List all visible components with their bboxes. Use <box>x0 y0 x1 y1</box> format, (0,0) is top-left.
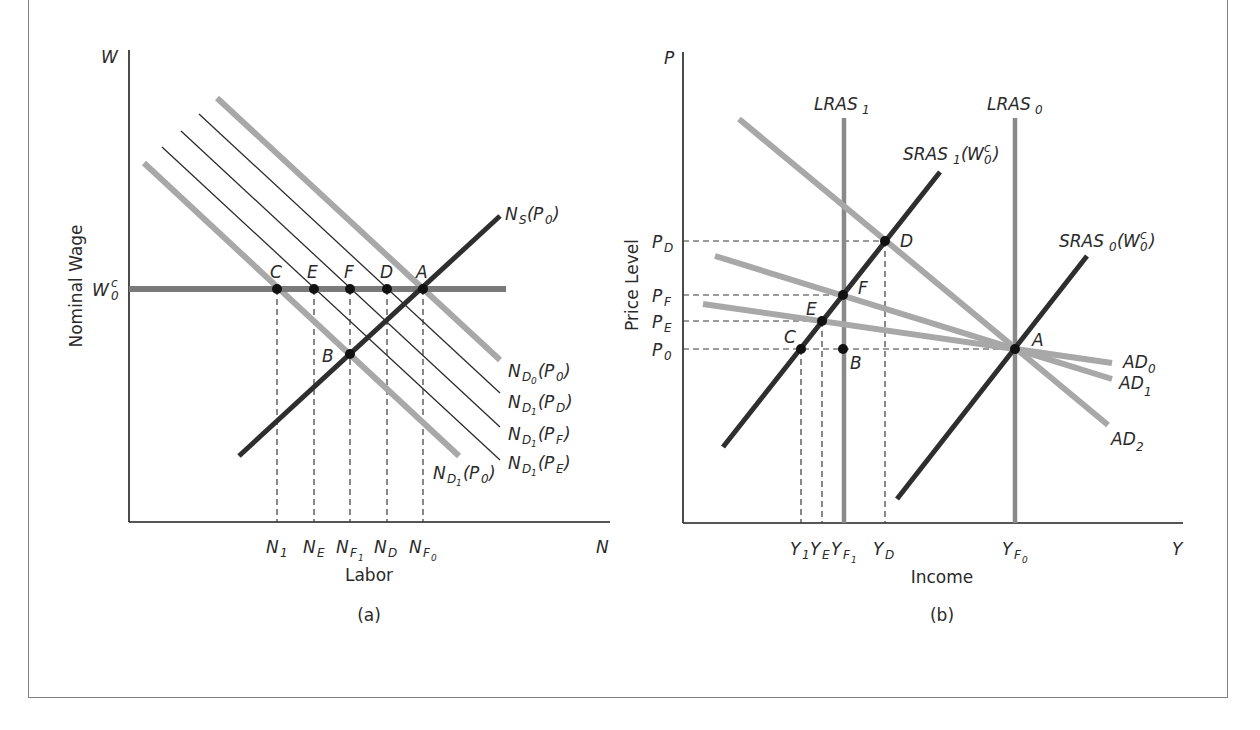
tick-nf1: N F 1 <box>336 537 364 563</box>
label-a-b: A <box>1031 330 1044 350</box>
svg-text:1: 1 <box>953 153 961 167</box>
label-c-b: C <box>784 327 796 347</box>
tick-n1: N 1 <box>266 537 288 560</box>
svg-text:D: D <box>556 401 565 415</box>
label-ad2: AD 2 <box>1110 429 1144 454</box>
svg-text:P: P <box>544 424 555 444</box>
y-axis-label-a: Nominal Wage <box>66 224 86 347</box>
svg-text:D: D <box>885 548 894 562</box>
svg-text:SRAS: SRAS <box>1059 231 1104 251</box>
svg-text:0: 0 <box>1140 240 1148 254</box>
label-ad1: AD 1 <box>1118 373 1152 399</box>
x-symbol-y: Y <box>1172 539 1184 559</box>
svg-text:): ) <box>562 424 571 444</box>
svg-text:AD: AD <box>1118 373 1144 393</box>
tick-pf: P F <box>652 286 672 309</box>
label-f-b: F <box>858 278 868 298</box>
svg-text:1: 1 <box>531 468 537 478</box>
svg-text:F: F <box>350 546 358 560</box>
point-d-a <box>382 284 392 294</box>
svg-text:D: D <box>447 472 456 486</box>
svg-text:Y: Y <box>790 539 802 559</box>
svg-text:D: D <box>522 401 531 415</box>
svg-text:D: D <box>388 546 397 560</box>
svg-text:W: W <box>1123 231 1141 251</box>
svg-text:F: F <box>664 295 672 309</box>
svg-text:Y: Y <box>810 539 822 559</box>
svg-text:2: 2 <box>1136 440 1144 454</box>
point-c-b <box>796 344 806 354</box>
svg-text:): ) <box>991 144 1000 164</box>
svg-text:1: 1 <box>280 546 288 560</box>
svg-text:W: W <box>92 280 110 300</box>
svg-text:1: 1 <box>862 103 870 117</box>
svg-text:F: F <box>556 433 564 447</box>
svg-text:1: 1 <box>1144 385 1152 399</box>
curve-nd1-p0 <box>144 163 459 456</box>
svg-text:P: P <box>652 340 663 360</box>
label-d-b: D <box>900 231 913 251</box>
svg-text:E: E <box>556 462 564 476</box>
y-axis-label-b: Price Level <box>622 239 642 331</box>
point-c-a <box>272 284 282 294</box>
tick-nd: N D <box>374 537 397 560</box>
tick-p0: P 0 <box>652 340 672 363</box>
tick-y1: Y 1 <box>790 539 810 562</box>
svg-text:): ) <box>1147 231 1156 251</box>
svg-text:P: P <box>533 204 544 224</box>
label-sras1: SRAS 1 ( W c 0 ) <box>903 141 1000 167</box>
svg-text:0: 0 <box>664 349 672 363</box>
svg-text:E: E <box>822 548 830 562</box>
curve-nd1-pf <box>181 131 500 427</box>
svg-text:Y: Y <box>831 539 843 559</box>
svg-text:0: 0 <box>545 213 553 227</box>
svg-text:F: F <box>843 548 851 562</box>
svg-text:N: N <box>508 453 521 473</box>
svg-text:D: D <box>522 462 531 476</box>
label-nd1-pe: N D 1 ( P E ) <box>508 453 571 478</box>
label-nd0-p0: N D 0 ( P 0 ) <box>508 361 571 386</box>
label-d-a: D <box>380 262 393 282</box>
svg-text:AD: AD <box>1110 429 1136 449</box>
svg-text:P: P <box>652 286 663 306</box>
svg-text:c: c <box>111 276 118 290</box>
svg-text:P: P <box>652 232 663 252</box>
svg-text:N: N <box>409 537 422 557</box>
svg-text:): ) <box>487 463 496 483</box>
point-d-b <box>880 236 890 246</box>
svg-text:0: 0 <box>1148 362 1156 376</box>
svg-text:0: 0 <box>984 153 992 167</box>
svg-text:N: N <box>508 424 521 444</box>
svg-text:N: N <box>336 537 349 557</box>
label-nd1-pf: N D 1 ( P F ) <box>508 424 571 449</box>
svg-text:N: N <box>266 537 279 557</box>
tick-pe: P E <box>652 312 672 335</box>
svg-text:): ) <box>551 204 560 224</box>
svg-text:): ) <box>564 392 573 412</box>
label-lras1: LRAS 1 <box>814 94 870 117</box>
x-axis-label-b: Income <box>911 567 974 587</box>
tick-yd: Y D <box>873 539 894 562</box>
label-e-a: E <box>307 262 318 282</box>
svg-text:P: P <box>544 453 555 473</box>
svg-text:1: 1 <box>358 553 364 563</box>
svg-text:N: N <box>433 463 446 483</box>
svg-text:0: 0 <box>431 553 437 563</box>
x-axis-label-a: Labor <box>345 565 393 585</box>
label-b-b: B <box>850 353 862 373</box>
label-f-a: F <box>344 262 354 282</box>
svg-text:0: 0 <box>1109 240 1117 254</box>
panel-b: D F E C B A P Y Price Level P D P F P E … <box>622 48 1184 625</box>
svg-text:P: P <box>544 361 555 381</box>
label-a-a: A <box>415 262 428 282</box>
label-lras0: LRAS 0 <box>987 94 1043 117</box>
svg-text:SRAS: SRAS <box>903 144 948 164</box>
curve-nd0-p0 <box>217 98 500 360</box>
svg-text:LRAS: LRAS <box>814 94 858 114</box>
tick-nf0: N F 0 <box>409 537 437 563</box>
curve-sras0 <box>897 256 1087 499</box>
caption-a: (a) <box>357 605 381 625</box>
tick-ne: N E <box>303 537 325 560</box>
svg-text:0: 0 <box>556 370 564 384</box>
label-nd1-p0: N D 1 ( P 0 ) <box>433 463 496 488</box>
